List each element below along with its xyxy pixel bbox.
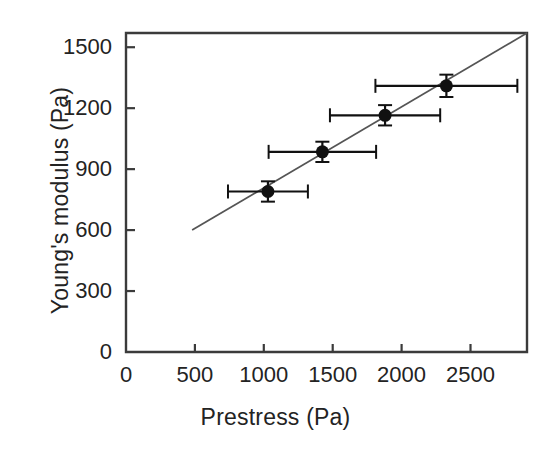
data-point-marker — [379, 109, 392, 122]
regression-fit-line — [192, 33, 527, 230]
x-axis-title: Prestress (Pa) — [0, 404, 551, 431]
x-tick-label: 0 — [120, 362, 132, 388]
x-tick-label: 1000 — [239, 362, 288, 388]
x-tick-label: 2000 — [377, 362, 426, 388]
data-point-marker — [440, 79, 453, 92]
figure-panel: 030060090012001500 05001000150020002500 … — [0, 0, 551, 451]
y-axis-title: Young's modulus (Pa) — [47, 11, 74, 391]
data-points — [261, 79, 452, 198]
x-tick-label: 2500 — [446, 362, 495, 388]
axis-tick-marks — [126, 47, 471, 352]
data-point-marker — [261, 185, 274, 198]
x-tick-label: 500 — [177, 362, 214, 388]
plot-frame — [126, 33, 527, 352]
data-point-marker — [316, 145, 329, 158]
x-tick-label: 1500 — [308, 362, 357, 388]
